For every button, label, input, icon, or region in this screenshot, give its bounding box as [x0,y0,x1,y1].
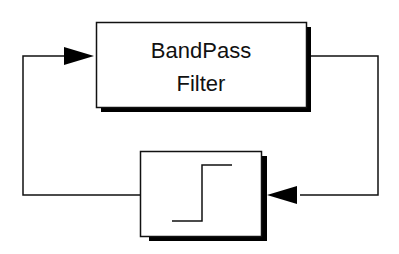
arrowhead-right-icon [64,47,94,65]
step-function-block [141,152,268,242]
connector-line-right [300,56,378,195]
step-function-box [141,152,262,237]
bandpass-filter-block: BandPass Filter [97,23,312,113]
bandpass-filter-label-line2: Filter [177,71,226,96]
arrowhead-left-icon [267,186,297,204]
feedback-loop-diagram: BandPass Filter [0,0,399,254]
bandpass-filter-label-line1: BandPass [151,38,251,63]
